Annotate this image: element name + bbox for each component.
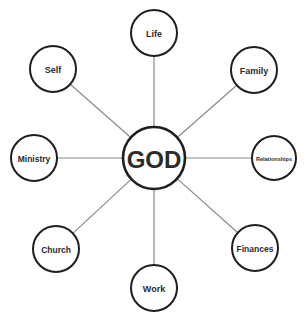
node-ministry: Ministry bbox=[11, 135, 57, 181]
node-label: Self bbox=[45, 65, 63, 75]
node-life: Life bbox=[131, 10, 177, 56]
connector-self bbox=[70, 84, 130, 137]
node-family: Family bbox=[231, 47, 277, 93]
center-node-god: GOD bbox=[123, 127, 185, 189]
connector-finances bbox=[177, 179, 238, 233]
node-self: Self bbox=[30, 46, 76, 92]
node-relationships: Relationships bbox=[252, 136, 296, 180]
connector-family bbox=[177, 85, 236, 137]
node-work: Work bbox=[131, 265, 177, 311]
node-label: Family bbox=[240, 66, 269, 76]
node-label: Finances bbox=[237, 244, 274, 254]
node-label: Church bbox=[41, 245, 71, 255]
node-finances: Finances bbox=[232, 225, 278, 271]
node-label: Work bbox=[143, 284, 166, 294]
node-label: Life bbox=[146, 29, 162, 39]
node-label: Relationships bbox=[256, 156, 292, 162]
node-label: Ministry bbox=[18, 154, 51, 164]
connector-church bbox=[73, 179, 131, 233]
node-church: Church bbox=[33, 226, 79, 272]
hub-spoke-diagram: LifeFamilyRelationshipsFinancesWorkChurc… bbox=[0, 0, 308, 324]
center-label: GOD bbox=[127, 146, 182, 173]
